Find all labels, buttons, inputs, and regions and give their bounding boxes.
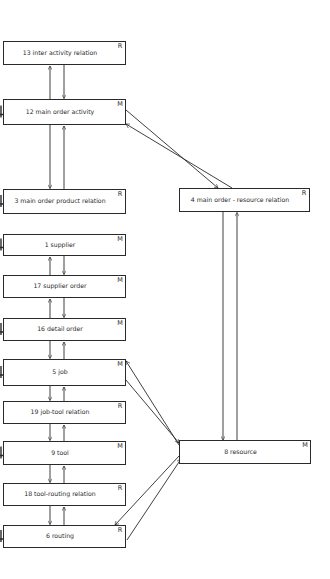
entity-type-tag: M [117, 235, 123, 243]
entity-label: 4 main order - resource relation [191, 196, 289, 203]
entity-label: 3 main order product relation [14, 197, 105, 205]
entity-label: 12 main order activity [26, 108, 95, 116]
entry-marker-icon [0, 323, 3, 335]
entity-box-6[interactable]: 6 routingR [0, 526, 126, 548]
entity-label: 5 job [52, 368, 67, 376]
entry-marker-icon [0, 106, 3, 118]
entity-box-16[interactable]: 16 detail orderM [0, 319, 126, 341]
entity-box-12[interactable]: 12 main order activityM [0, 100, 126, 125]
entity-label: 13 inter activity relation [23, 49, 98, 57]
entry-marker-icon [0, 447, 3, 459]
entity-label: 9 tool [51, 449, 69, 456]
connector-line [127, 459, 181, 540]
entry-marker-icon [0, 530, 3, 542]
entity-box-1[interactable]: 1 supplierM [0, 235, 126, 256]
entity-boxes: 13 inter activity relationR12 main order… [0, 42, 311, 548]
entity-type-tag: M [302, 441, 308, 449]
entity-type-tag: M [117, 360, 123, 368]
connector-line [126, 361, 179, 445]
entity-type-tag: M [117, 276, 123, 284]
entry-marker-icon [0, 239, 3, 251]
entity-label: 19 job-tool relation [31, 408, 90, 416]
connector-line [126, 110, 218, 188]
connector-line [126, 124, 232, 188]
entity-box-4[interactable]: 4 main order - resource relationR [180, 189, 310, 212]
entity-box-19[interactable]: 19 job-tool relationR [4, 402, 126, 424]
entity-box-18[interactable]: 18 tool-routing relationR [4, 484, 126, 506]
entity-type-tag: R [118, 484, 123, 492]
entity-type-tag: M [117, 442, 123, 450]
entity-box-17[interactable]: 17 supplier orderM [4, 276, 126, 298]
entity-label: 16 detail order [37, 325, 83, 332]
entity-type-tag: R [118, 190, 123, 198]
entity-type-tag: R [302, 189, 307, 197]
entity-type-tag: R [118, 526, 123, 534]
entity-type-tag: M [117, 100, 123, 108]
entity-type-tag: M [117, 319, 123, 327]
entity-type-tag: R [118, 402, 123, 410]
entity-box-3[interactable]: 3 main order product relationR [0, 190, 126, 214]
er-diagram: 13 inter activity relationR12 main order… [0, 0, 330, 579]
entity-label: 18 tool-routing relation [24, 490, 96, 498]
entity-box-13[interactable]: 13 inter activity relationR [4, 42, 126, 65]
entity-box-8[interactable]: 8 resourceM [180, 441, 311, 464]
entry-marker-icon [0, 366, 3, 378]
entity-label: 8 resource [224, 448, 257, 455]
entity-type-tag: R [118, 42, 123, 50]
connector-line [126, 380, 179, 443]
entity-label: 1 supplier [45, 241, 76, 249]
entity-label: 17 supplier order [33, 282, 87, 290]
entity-label: 6 routing [46, 532, 74, 540]
connection-lines [50, 65, 237, 540]
entity-box-5[interactable]: 5 jobM [0, 360, 126, 386]
entry-marker-icon [0, 195, 3, 207]
entity-box-9[interactable]: 9 toolM [0, 442, 126, 465]
